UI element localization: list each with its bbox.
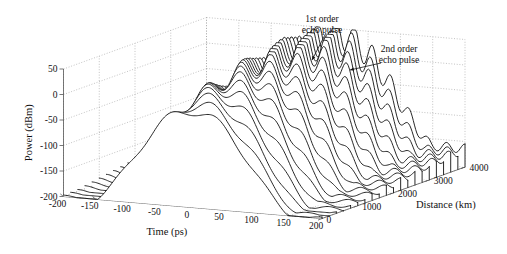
time-tick-label: -50	[148, 207, 161, 217]
time-tick-label: 100	[244, 215, 259, 225]
power-tick-label: -100	[40, 141, 58, 151]
waterfall-figure: 500-50-100-150-200-200-150-100-500501001…	[0, 0, 507, 254]
first-order-echo-label-line2: echo pulse	[302, 25, 342, 35]
power-tick-label: -150	[40, 166, 58, 176]
time-axis-title: Time (ps)	[147, 226, 188, 238]
time-tick-label: -200	[49, 199, 67, 209]
power-tick-label: -50	[45, 115, 58, 125]
second-order-echo-label-line2: echo pulse	[379, 55, 419, 65]
second-order-echo-label-line1: 2nd order	[381, 44, 419, 54]
time-tick-label: -150	[81, 201, 99, 211]
time-tick-label: 150	[277, 218, 292, 228]
distance-tick-label: 1000	[362, 202, 381, 212]
first-order-echo-label-line1: 1st order	[305, 14, 339, 24]
time-tick-label: 200	[309, 221, 324, 231]
power-tick-label: 0	[53, 90, 58, 100]
distance-tick-label: 2000	[398, 189, 417, 199]
power-tick-label: 50	[48, 64, 58, 74]
distance-axis-title: Distance (km)	[416, 199, 476, 211]
power-axis-title: Power (dBm)	[23, 104, 35, 161]
distance-tick-label: 0	[327, 215, 332, 225]
time-tick-label: 0	[184, 210, 189, 220]
time-tick-label: 50	[214, 212, 224, 222]
time-tick-label: -100	[113, 204, 131, 214]
distance-tick-label: 3000	[434, 176, 453, 186]
distance-tick-label: 4000	[470, 163, 489, 173]
